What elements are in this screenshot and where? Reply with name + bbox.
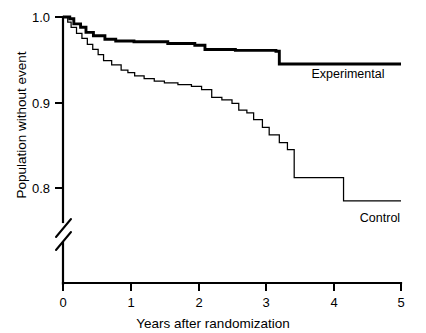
y-tick-label-1-0: 1.0 xyxy=(32,10,50,25)
y-tick-label-0-9: 0.9 xyxy=(32,96,50,111)
chart-canvas: 1.0 0.9 0.8 0 1 2 3 4 5 Years after rand… xyxy=(0,0,426,333)
x-tick-label-2: 2 xyxy=(195,295,202,310)
y-axis-title: Population without event xyxy=(14,51,29,198)
series-line-experimental xyxy=(63,17,401,64)
x-axis-title: Years after randomization xyxy=(136,316,289,331)
series-label-control: Control xyxy=(360,211,400,225)
x-tick-label-3: 3 xyxy=(262,295,269,310)
x-tick-label-1: 1 xyxy=(127,295,134,310)
series-line-control xyxy=(63,17,401,201)
x-tick-label-0: 0 xyxy=(59,295,66,310)
series-label-experimental: Experimental xyxy=(312,67,385,81)
kaplan-meier-chart: 1.0 0.9 0.8 0 1 2 3 4 5 Years after rand… xyxy=(0,0,426,333)
y-tick-label-0-8: 0.8 xyxy=(32,181,50,196)
x-tick-label-5: 5 xyxy=(397,295,404,310)
x-tick-label-4: 4 xyxy=(330,295,337,310)
